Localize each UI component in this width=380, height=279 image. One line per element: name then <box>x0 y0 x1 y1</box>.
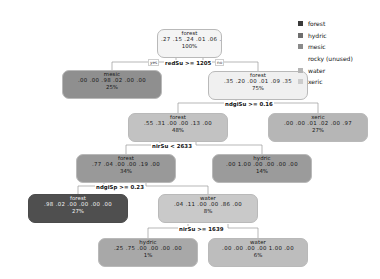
node-percentage: 75% <box>212 86 304 92</box>
tree-node-xeric-27[interactable]: xeric .00 .00 .01 .02 .00 .97 27% <box>268 113 368 142</box>
node-percentage: 48% <box>132 128 224 134</box>
legend: foresthydricmesicrocky (unused)waterxeri… <box>298 18 378 88</box>
tree-node-hydric-1[interactable]: hydric .25 .75 .00 .00 .00 .00 1% <box>98 238 198 267</box>
legend-item-forest: forest <box>298 18 378 30</box>
split-label-ndgisp[interactable]: ndgiSp >= 0.23 <box>95 184 145 190</box>
decision-tree-diagram: forest .27 .15 .24 .01 .06 .27 100% redS… <box>0 0 380 279</box>
legend-item-water: water <box>298 64 378 76</box>
legend-swatch-icon <box>298 33 303 38</box>
legend-swatch-icon <box>298 56 303 61</box>
tree-node-root[interactable]: forest .27 .15 .24 .01 .06 .27 100% <box>157 29 222 58</box>
legend-item-rocky: rocky (unused) <box>298 53 378 65</box>
legend-swatch-icon <box>298 68 303 73</box>
node-percentage: 6% <box>212 253 304 259</box>
legend-label: forest <box>308 20 325 27</box>
tree-node-water-6[interactable]: water .00 .00 .00 .00 1.00 .00 6% <box>208 238 308 267</box>
tree-node-forest-34[interactable]: forest .77 .04 .00 .00 .19 .00 34% <box>76 154 176 183</box>
legend-label: hydric <box>308 32 327 39</box>
node-percentage: 27% <box>32 209 124 215</box>
node-percentage: 100% <box>161 44 218 50</box>
node-percentage: 34% <box>80 169 172 175</box>
legend-swatch-icon <box>298 21 303 26</box>
split-label-redsu[interactable]: redSu >= 1205 <box>164 60 212 66</box>
tree-node-water-8[interactable]: water .04 .11 .00 .00 .86 .00 8% <box>158 194 258 223</box>
tree-node-forest-48[interactable]: forest .55 .31 .00 .00 .13 .00 48% <box>128 113 228 142</box>
node-percentage: 1% <box>102 253 194 259</box>
legend-swatch-icon <box>298 79 303 84</box>
node-percentage: 27% <box>272 128 364 134</box>
split-no-badge-redsu[interactable]: no <box>215 59 224 66</box>
node-percentage: 25% <box>66 85 158 91</box>
tree-node-hydric-14[interactable]: hydric .00 1.00 .00 .00 .00 .00 14% <box>212 154 312 183</box>
node-percentage: 14% <box>216 169 308 175</box>
legend-label: rocky (unused) <box>308 55 353 62</box>
legend-label: water <box>308 67 325 74</box>
legend-swatch-icon <box>298 44 303 49</box>
node-percentage: 8% <box>162 209 254 215</box>
split-label-nirsu-2633[interactable]: nirSu < 2633 <box>151 143 193 149</box>
split-label-nirsu-1639[interactable]: nirSu >= 1639 <box>178 226 225 232</box>
legend-item-xeric: xeric <box>298 76 378 88</box>
legend-label: mesic <box>308 43 326 50</box>
legend-item-mesic: mesic <box>298 41 378 53</box>
split-label-ndgisu[interactable]: ndgiSu >= 0.16 <box>224 101 274 107</box>
legend-label: xeric <box>308 78 323 85</box>
tree-node-forest-27[interactable]: forest .98 .02 .00 .00 .00 .00 27% <box>28 194 128 223</box>
tree-node-forest-75[interactable]: forest .35 .20 .00 .01 .09 .35 75% <box>208 71 308 100</box>
split-yes-badge-redsu[interactable]: yes <box>148 59 159 66</box>
legend-item-hydric: hydric <box>298 30 378 42</box>
tree-node-mesic-25[interactable]: mesic .00 .00 .98 .02 .00 .00 25% <box>62 70 162 99</box>
